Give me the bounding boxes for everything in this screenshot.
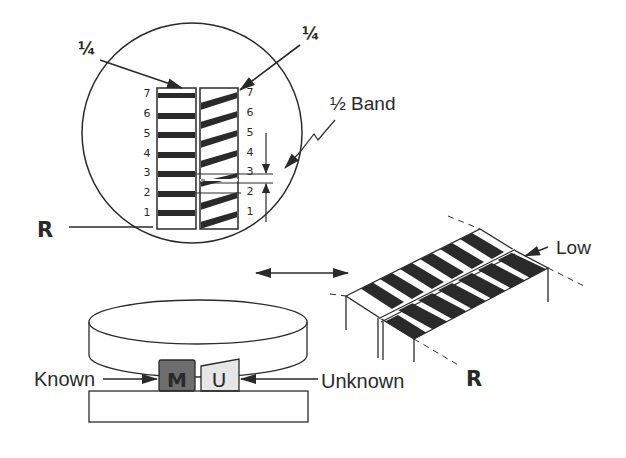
svg-text:3: 3	[144, 166, 151, 179]
unknown-block-letter: U	[212, 368, 227, 392]
svg-text:2: 2	[247, 185, 254, 198]
svg-text:4: 4	[247, 146, 254, 159]
reference-label-right: R	[466, 367, 482, 391]
low-label: Low	[556, 237, 591, 258]
quarter-label-right: ¼	[302, 24, 320, 44]
svg-text:1: 1	[144, 206, 151, 219]
svg-text:5: 5	[247, 126, 254, 139]
half-band-leader-arrow	[285, 120, 335, 168]
unknown-fringe-column	[200, 88, 238, 229]
svg-text:6: 6	[144, 107, 151, 120]
low-arrow	[525, 247, 548, 256]
svg-text:6: 6	[247, 106, 254, 119]
known-fringe-column	[157, 88, 196, 229]
optical-flat	[89, 322, 307, 377]
svg-text:3: 3	[247, 165, 254, 178]
optical-flat-setup: M U	[89, 300, 318, 422]
half-band-label: ½ Band	[330, 93, 396, 114]
optical-flat-diagram: 7 6 5 4 3 2 1 7 6 5 4 3 2 1	[0, 0, 626, 458]
svg-text:1: 1	[247, 205, 254, 218]
magnified-view: 7 6 5 4 3 2 1 7 6 5 4 3 2 1	[37, 23, 396, 243]
quarter-label-left: ¼	[78, 39, 96, 59]
unknown-column-numbers: 7 6 5 4 3 2 1	[247, 86, 254, 218]
svg-text:5: 5	[144, 127, 151, 140]
isometric-gauge-blocks	[330, 216, 584, 366]
known-label: Known	[34, 368, 95, 390]
known-column-numbers: 7 6 5 4 3 2 1	[144, 87, 151, 219]
svg-text:7: 7	[144, 87, 151, 100]
svg-text:7: 7	[247, 86, 254, 99]
reference-label-left: R	[37, 218, 53, 242]
surface-plate	[89, 391, 308, 422]
svg-text:2: 2	[144, 186, 151, 199]
quarter-band-arrows	[100, 45, 300, 90]
svg-text:4: 4	[144, 147, 151, 160]
known-block-letter: M	[167, 368, 187, 392]
unknown-label: Unknown	[321, 370, 404, 392]
